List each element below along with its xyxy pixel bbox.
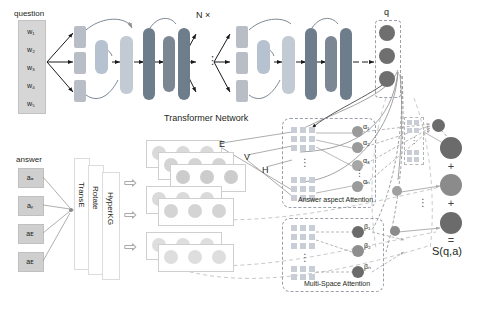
aspect-grid-cell [291,145,297,151]
beta-node-2 [352,245,364,257]
mspace-grid-cell [309,225,315,231]
mspace-grid-cell [291,243,297,249]
beta-label-1: β₁ [364,223,370,230]
aspect-grid-cell [309,136,315,142]
aspect-grid-cell [309,127,315,133]
embedding-cell [188,250,202,264]
mspace-grid-cell [300,266,306,272]
embedding-cell [212,250,226,264]
score-input-node-2 [390,226,400,236]
score-operator-plus-1: + [444,160,458,172]
score-matrix-cell [414,120,419,125]
score-matrix-cell [414,157,419,162]
embedding-cell [164,250,178,264]
mspace-grid-cell [309,266,315,272]
aspect-grid-cell [300,186,306,192]
score-matrix-cell [407,120,412,125]
aspect-grid-cell [291,127,297,133]
alpha-label-n: αₙ [363,178,370,186]
multi-space-attention-caption: Multi-Space Attention [304,280,370,287]
kg-fat-arrow-3: ⇨ [124,237,137,256]
score-matrix-cell [407,157,412,162]
embedding-cell [188,204,202,218]
beta-label-2: β₂ [364,242,371,249]
embedding-cell [212,204,226,218]
kg-label-transe: TransE [77,182,86,208]
mspace-grid-cell [291,274,297,280]
mspace-grid-cell [291,225,297,231]
kg-fat-arrow-1: ⇨ [124,173,137,192]
embedding-cell [176,170,190,184]
score-matrix-cell [407,128,412,133]
embedding-label-E: E [219,139,225,149]
alpha-label-1: α₁ [363,123,369,130]
aspect-grid-cell [309,145,315,151]
embedding-cell [200,170,214,184]
aspect-grid-cell [300,136,306,142]
score-terms-dots: ⋮ [418,197,428,208]
score-result-label: S(q,a) [432,245,462,257]
score-term-1 [440,137,462,159]
alpha-node-1 [352,126,363,137]
answer-aspect-attention-caption: Answer aspect Attention [298,196,373,203]
aggregation-node [432,119,445,132]
score-input-node-1 [392,186,402,196]
embedding-cell [164,204,178,218]
mspace-grid-cell [291,234,297,240]
beta-node-n [352,266,364,278]
kg-label-rotate: Rotate [91,186,100,210]
alpha-node-2 [352,142,363,153]
score-matrix-dots: ⋮ [410,136,418,145]
beta-label-n: βₙ [364,263,371,271]
aspect-attn-vertical-dots: ⋮ [300,157,310,168]
aspect-grid-cell [291,177,297,183]
aspect-grid-cell [300,145,306,151]
aspect-grid-cell [300,127,306,133]
mspace-vertical-dots: ⋮ [300,252,310,263]
aspect-grid-cell [309,186,315,192]
mspace-grid-cell [300,234,306,240]
aspect-grid-cell [291,136,297,142]
score-matrix-cell [407,150,412,155]
score-term-2 [440,174,462,196]
aspect-grid-cell [291,186,297,192]
kg-label-hyperkg: HyperKG [106,192,115,225]
aspect-grid-cell [291,195,297,201]
beta-node-1 [352,226,364,238]
mspace-grid-cell [309,234,315,240]
embedding-label-V: V [244,152,250,162]
score-matrix-cell [414,128,419,133]
alpha-label-2: α₂ [363,139,370,146]
score-term-n [440,212,462,234]
alpha-label-3: α₃ [363,157,370,164]
mspace-grid-cell [291,266,297,272]
score-operator-plus-2: + [444,197,458,209]
kg-fat-arrow-2: ⇨ [124,205,137,224]
mspace-grid-cell [309,243,315,249]
kg-box-hyperkg [102,172,120,280]
mspace-grid-cell [300,243,306,249]
embedding-cell [224,170,238,184]
aspect-grid-cell [309,177,315,183]
embedding-label-H: H [262,165,269,175]
alpha-node-n [352,181,363,192]
mspace-grid-cell [300,225,306,231]
aspect-attn-weight-dots: ⋮ [355,168,364,178]
score-matrix-cell [414,150,419,155]
aspect-grid-cell [300,177,306,183]
